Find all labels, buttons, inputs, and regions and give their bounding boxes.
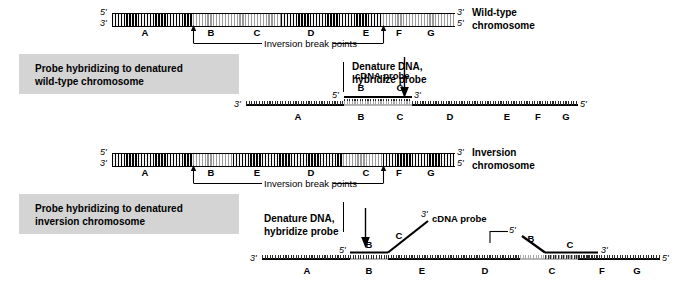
figure-canvas: 5' 3' 3' 5' Wild-type chromosome A B C D… bbox=[0, 0, 690, 295]
inv-probe-2-seg-c: C bbox=[563, 240, 577, 250]
inv-probe-2-hybrid-hatch bbox=[545, 255, 598, 259]
inv-probe-2-seg-b: B bbox=[524, 234, 538, 244]
inv-probe-2-strand bbox=[0, 0, 690, 295]
inv-probe-2-prime-3: 3' bbox=[601, 246, 608, 255]
inv-probe-2-prime-5: 5' bbox=[509, 226, 516, 235]
